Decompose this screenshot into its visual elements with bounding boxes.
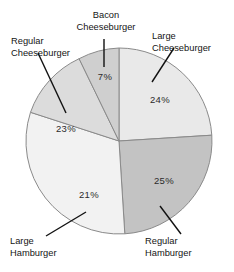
pie-label-regular-hamburger: Regular Hamburger xyxy=(145,236,231,259)
pie-label-bacon-cheeseburger: Bacon Cheeseburger xyxy=(58,10,154,33)
pie-value-regular-cheeseburger: 23% xyxy=(56,123,76,134)
pie-value-regular-hamburger: 25% xyxy=(154,175,174,186)
pie-value-large-hamburger: 21% xyxy=(79,189,99,200)
pie-label-bacon-cheeseburger-line2: Cheeseburger xyxy=(58,22,154,34)
pie-label-large-cheeseburger-line1: Large xyxy=(152,31,176,41)
pie-label-regular-cheeseburger-line2: Cheeseburger xyxy=(11,48,95,60)
pie-value-large-cheeseburger: 24% xyxy=(150,94,170,105)
pie-label-large-cheeseburger-line2: Cheeseburger xyxy=(152,43,234,55)
pie-label-regular-hamburger-line2: Hamburger xyxy=(145,248,231,260)
pie-label-regular-hamburger-line1: Regular xyxy=(145,236,178,246)
pie-label-regular-cheeseburger: Regular Cheeseburger xyxy=(11,36,95,59)
pie-chart: 24% 25% 21% 23% 7% Bacon Cheeseburger Re… xyxy=(0,0,234,272)
pie-label-regular-cheeseburger-line1: Regular xyxy=(11,36,44,46)
pie-label-bacon-cheeseburger-line1: Bacon xyxy=(93,10,119,20)
pie-value-bacon-cheeseburger: 7% xyxy=(98,71,113,82)
pie-label-large-cheeseburger: Large Cheeseburger xyxy=(152,31,234,54)
pie-label-large-hamburger: Large Hamburger xyxy=(10,236,94,259)
pie-label-large-hamburger-line1: Large xyxy=(10,236,34,246)
pie-label-large-hamburger-line2: Hamburger xyxy=(10,248,94,260)
